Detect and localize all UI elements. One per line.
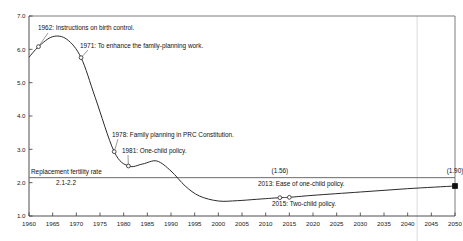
x-tick-label: 2045 [424, 220, 438, 227]
endpoint-marker [453, 184, 458, 189]
chart-background [0, 0, 463, 241]
y-tick-label: 6.0 [17, 46, 26, 53]
policy-annotation-label: 1962: Instructions on birth control. [38, 24, 134, 31]
x-tick-label: 2035 [377, 220, 391, 227]
policy-annotation-label: 2015: Two-child policy. [272, 200, 336, 208]
x-tick-label: 2010 [259, 220, 273, 227]
replacement-rate-label-line1: Replacement fertility rate [31, 168, 102, 176]
data-point-marker [37, 45, 41, 49]
x-tick-label: 1995 [188, 220, 202, 227]
y-tick-label: 1.0 [17, 212, 26, 219]
x-tick-label: 2030 [353, 220, 367, 227]
fertility-rate-chart: 1.02.03.04.05.06.07.0 196019651970197519… [0, 0, 463, 241]
x-tick-label: 2020 [306, 220, 320, 227]
x-tick-label: 2025 [330, 220, 344, 227]
x-tick-label: 1975 [93, 220, 107, 227]
x-tick-label: 2005 [235, 220, 249, 227]
x-tick-label: 1965 [46, 220, 60, 227]
x-tick-label: 1960 [22, 220, 36, 227]
policy-annotation-label: 1978: Family planning in PRC Constitutio… [112, 131, 234, 139]
x-tick-label: 2000 [211, 220, 225, 227]
chart-canvas: 1.02.03.04.05.06.07.0 196019651970197519… [0, 0, 463, 241]
y-tick-label: 4.0 [17, 112, 26, 119]
policy-annotation-label: 1971: To enhance the family-planning wor… [80, 42, 203, 50]
x-tick-label: 1980 [117, 220, 131, 227]
x-tick-label: 1990 [164, 220, 178, 227]
y-tick-label: 3.0 [17, 146, 26, 153]
y-tick-label: 2.0 [17, 179, 26, 186]
data-point-marker [126, 164, 130, 168]
value-callout: (1.90) [447, 167, 463, 175]
x-tick-label: 2050 [448, 220, 462, 227]
y-tick-label: 7.0 [17, 12, 26, 19]
y-tick-label: 5.0 [17, 79, 26, 86]
data-point-marker [112, 150, 116, 154]
data-point-marker [79, 56, 83, 60]
data-point-marker [287, 195, 291, 199]
replacement-rate-label-line2: 2.1-2.2 [56, 179, 76, 186]
x-tick-label: 1970 [69, 220, 83, 227]
data-point-marker [278, 196, 282, 200]
x-tick-label: 2040 [401, 220, 415, 227]
x-tick-label: 2015 [282, 220, 296, 227]
x-tick-label: 1985 [140, 220, 154, 227]
policy-annotation-label: 1981: One-child policy. [122, 147, 187, 155]
policy-annotation-label: 2013: Ease of one-child policy. [258, 180, 345, 188]
value-callout: (1.56) [272, 167, 289, 175]
